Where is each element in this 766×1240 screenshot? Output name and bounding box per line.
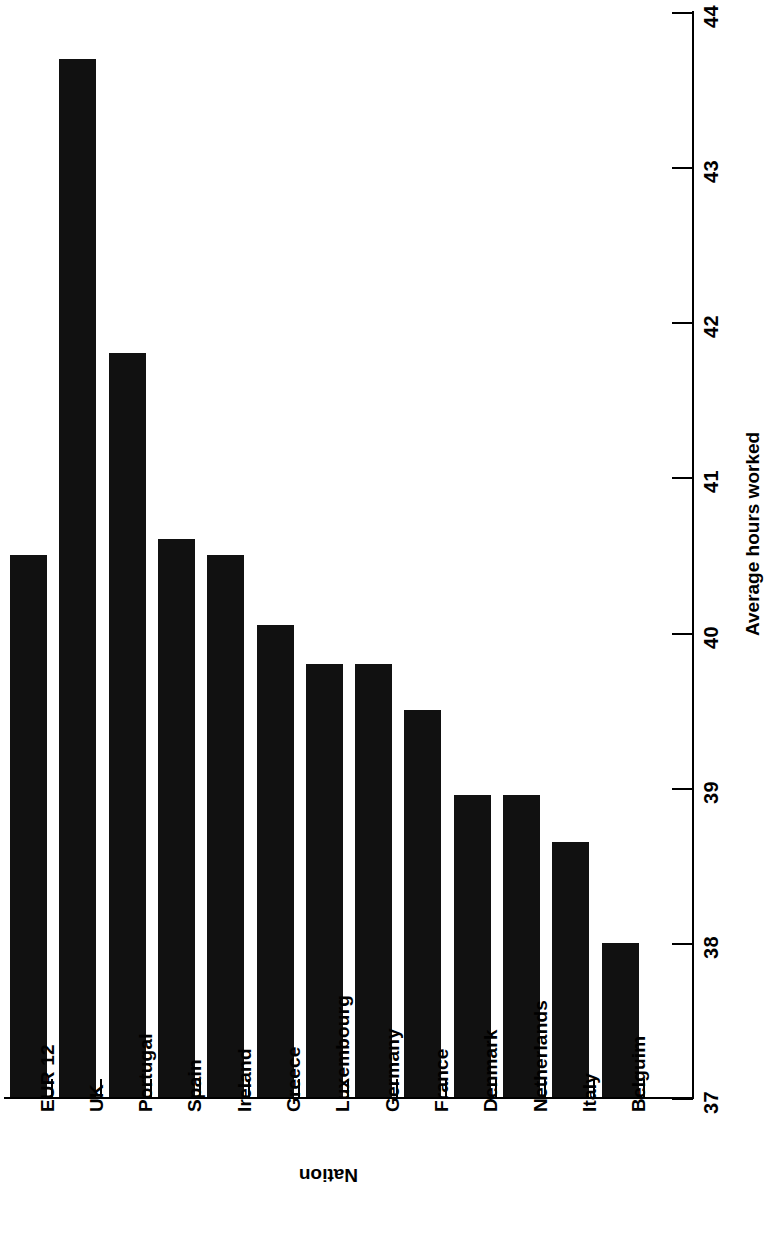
value-tick [672, 477, 693, 479]
bar [552, 842, 589, 1098]
category-label: Belguim [628, 1036, 650, 1112]
category-label: Spain [184, 1059, 206, 1112]
value-tick-label: 41 [700, 470, 723, 493]
value-tick [672, 788, 693, 790]
value-tick-label: 43 [700, 160, 723, 183]
value-tick-label: 42 [700, 315, 723, 338]
bar [59, 59, 96, 1098]
value-tick-label: 39 [700, 780, 723, 803]
category-label: UK [86, 1084, 108, 1112]
value-tick [672, 12, 693, 14]
bar [207, 555, 244, 1098]
value-tick [672, 167, 693, 169]
category-label: Germany [382, 1028, 404, 1112]
category-label: Italy [579, 1073, 601, 1112]
category-label: France [431, 1048, 453, 1112]
value-axis-line [692, 11, 694, 1099]
category-axis-title: Nation [299, 1164, 358, 1186]
bar [404, 710, 441, 1098]
bar [109, 353, 146, 1098]
value-tick-label: 44 [700, 5, 723, 28]
value-tick [672, 633, 693, 635]
value-tick [672, 1098, 693, 1100]
plot-area [0, 0, 694, 1099]
category-label: Luxembourg [332, 995, 354, 1112]
value-tick [672, 943, 693, 945]
value-tick-label: 38 [700, 936, 723, 959]
bar [257, 625, 294, 1098]
value-tick [672, 322, 693, 324]
bar-chart-figure: EUR 12UKPortugalSpainIrelandGreeceLuxemb… [0, 0, 766, 1240]
value-axis-title: Average hours worked [742, 432, 764, 636]
bar [158, 539, 195, 1098]
value-tick-label: 40 [700, 625, 723, 648]
category-label: EUR 12 [37, 1044, 59, 1112]
bar [10, 555, 47, 1098]
category-label: Denmark [480, 1029, 502, 1112]
category-label: Portugal [135, 1033, 157, 1112]
category-label: Netherlands [530, 1000, 552, 1112]
category-label: Greece [283, 1046, 305, 1112]
category-label: Ireland [234, 1048, 256, 1112]
value-tick-label: 37 [700, 1091, 723, 1114]
